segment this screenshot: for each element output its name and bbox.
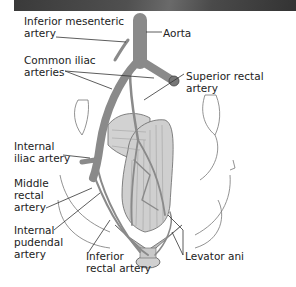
label-internal-pudendal-artery: Internal pudendal artery [14,224,63,260]
label-common-iliac-arteries: Common iliac arteries [24,54,96,78]
label-superior-rectal-artery: Superior rectal artery [186,70,296,94]
cut-iliac-artery [169,76,179,86]
label-internal-iliac-artery: Internal iliac artery [14,140,70,164]
label-levator-ani: Levator ani [185,250,244,262]
label-middle-rectal-artery: Middle rectal artery [14,177,49,213]
label-inferior-rectal-artery: Inferior rectal artery [86,250,151,274]
label-aorta: Aorta [163,27,191,39]
label-inferior-mesenteric-artery: Inferior mesenteric artery [24,15,124,39]
